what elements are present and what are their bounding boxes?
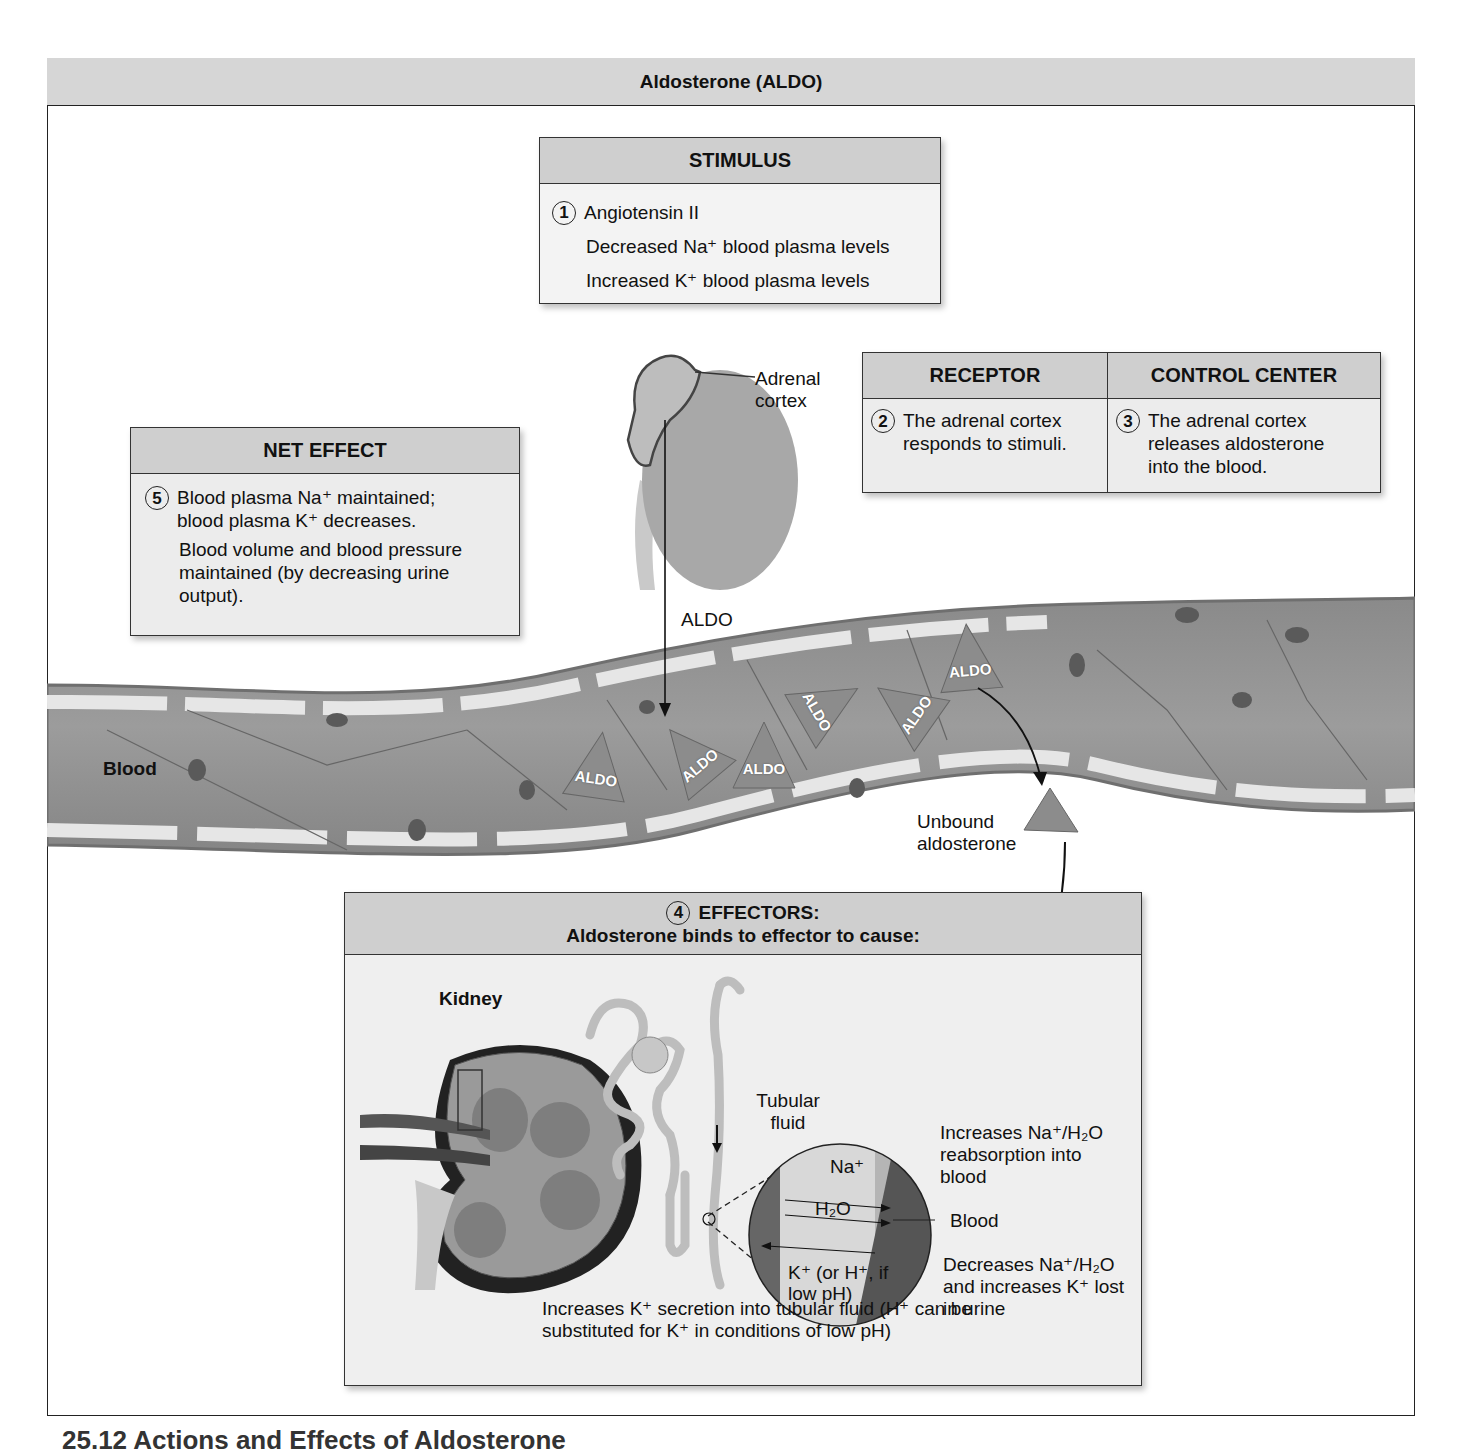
diagram-title: Aldosterone (ALDO) xyxy=(47,58,1415,106)
effectors-heading: 4 EFFECTORS: Aldosterone binds to effect… xyxy=(345,893,1141,955)
control-center-text: The adrenal cortex releases aldosterone … xyxy=(1148,409,1348,478)
stimulus-item: Decreased Na⁺ blood plasma levels xyxy=(552,230,928,264)
step-number-badge: 4 xyxy=(666,901,690,925)
net-effect-heading: NET EFFECT xyxy=(131,428,519,474)
step-number-badge: 2 xyxy=(871,409,895,433)
step-number-badge: 5 xyxy=(145,486,169,510)
control-center-panel: CONTROL CENTER 3 The adrenal cortex rele… xyxy=(1108,353,1380,492)
stimulus-box: STIMULUS 1 Angiotensin II Decreased Na⁺ … xyxy=(539,137,941,304)
decreases-na-text: Decreases Na⁺/H₂O and increases K⁺ lost … xyxy=(943,1254,1143,1320)
k-secretion-text: Increases K⁺ secretion into tubular flui… xyxy=(542,1298,972,1342)
aldo-arrow-label: ALDO xyxy=(681,609,733,631)
unbinding-arrow xyxy=(970,680,1070,790)
receptor-heading: RECEPTOR xyxy=(863,353,1107,399)
na-label: Na⁺ xyxy=(830,1156,864,1178)
aldo-hormone-triangle: ALDO xyxy=(560,726,635,805)
step-number-badge: 1 xyxy=(552,201,576,225)
figure-caption: 25.12 Actions and Effects of Aldosterone xyxy=(62,1425,566,1453)
receptor-text: The adrenal cortex responds to stimuli. xyxy=(903,409,1099,455)
stimulus-item: 1 Angiotensin II xyxy=(552,196,928,230)
control-center-heading: CONTROL CENTER xyxy=(1108,353,1380,399)
tubular-fluid-label: Tubular fluid xyxy=(748,1090,828,1134)
receptor-control-box: RECEPTOR 2 The adrenal cortex responds t… xyxy=(862,352,1381,493)
step-number-badge: 3 xyxy=(1116,409,1140,433)
h2o-label: H₂O xyxy=(815,1198,851,1220)
aldo-hormone-triangle: ALDO xyxy=(731,720,797,790)
kidney-label: Kidney xyxy=(439,988,502,1010)
stimulus-item: Increased K⁺ blood plasma levels xyxy=(552,264,928,298)
adrenal-cortex-label: Adrenal cortex xyxy=(755,368,835,412)
blood-label: Blood xyxy=(103,758,157,780)
aldo-release-arrow xyxy=(650,420,680,720)
effector-blood-label: Blood xyxy=(950,1210,999,1232)
stimulus-heading: STIMULUS xyxy=(540,138,940,184)
net-effect-item: 5 Blood plasma Na⁺ maintained; blood pla… xyxy=(145,486,505,532)
increases-na-reabsorption-text: Increases Na⁺/H₂O reabsorption into bloo… xyxy=(940,1122,1125,1188)
receptor-panel: RECEPTOR 2 The adrenal cortex responds t… xyxy=(863,353,1108,492)
